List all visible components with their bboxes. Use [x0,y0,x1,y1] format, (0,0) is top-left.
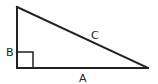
label-a: A [79,72,87,84]
triangle [17,7,148,68]
label-b: B [6,46,14,59]
hypotenuse-c-line [17,7,148,68]
label-c: C [91,29,99,42]
right-angle-marker [17,52,33,68]
right-triangle-diagram: B C A [0,0,158,84]
